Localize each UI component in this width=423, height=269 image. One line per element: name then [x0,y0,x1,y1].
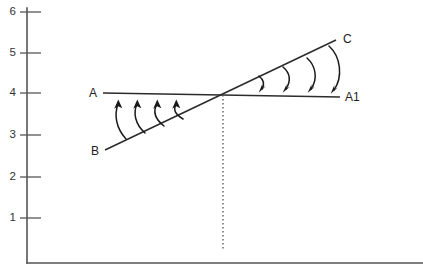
right-arrow-group [259,46,340,94]
figure-canvas: 6 5 4 3 2 1 [0,0,423,269]
label-b: B [91,144,99,158]
diagram-svg: 6 5 4 3 2 1 [0,0,423,269]
left-arrow-group [114,100,183,140]
tick-label-5: 5 [10,46,16,58]
right-arrow-2-icon [283,67,291,93]
tick-label-1: 1 [10,211,16,223]
label-a: A [89,86,97,100]
left-arrow-2-icon [133,100,145,134]
data-lines [103,40,340,251]
right-arrow-4-icon [329,46,340,94]
label-a1: A1 [345,90,360,104]
y-axis-ticks [20,12,41,218]
left-arrow-1-icon [114,100,126,140]
tick-label-6: 6 [10,5,16,17]
tick-label-2: 2 [10,170,16,182]
tick-label-3: 3 [10,128,16,140]
right-arrow-1-icon [259,76,266,93]
tick-label-4: 4 [10,86,17,98]
line-b-c [105,40,336,150]
right-arrow-3-icon [307,58,315,93]
axis-group [27,8,423,263]
y-axis-tick-labels: 6 5 4 3 2 1 [10,5,17,223]
label-c: C [343,32,352,46]
